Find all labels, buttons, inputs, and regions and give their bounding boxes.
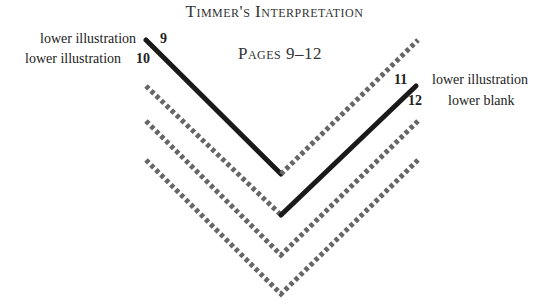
v-shape-2	[146, 86, 416, 215]
v-shape-4	[146, 160, 418, 294]
v4-dashed	[146, 160, 418, 294]
v2-right-arm-solid	[281, 86, 416, 215]
v-diagram	[0, 0, 549, 305]
v-shape-1	[146, 40, 418, 174]
v3-dashed	[146, 121, 418, 255]
v-shape-3	[146, 121, 418, 255]
